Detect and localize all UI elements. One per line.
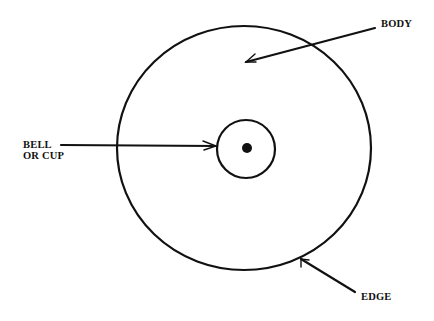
- edge-arrow: [301, 259, 355, 292]
- edge-label: EDGE: [361, 291, 392, 302]
- bell-label-line2: OR CUP: [23, 150, 64, 161]
- bell-arrow: [61, 145, 216, 146]
- body-label: BODY: [381, 18, 412, 29]
- bell-label-line1: BELL: [23, 139, 52, 150]
- cymbal-diagram: [0, 0, 434, 321]
- center-hole-dot: [242, 143, 252, 153]
- body-arrow: [246, 28, 375, 62]
